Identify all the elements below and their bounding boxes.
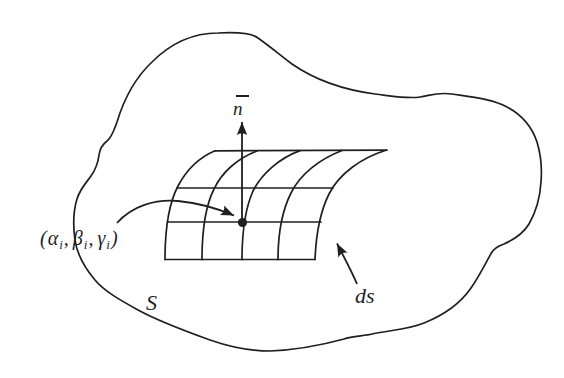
area-element-label: ds — [355, 285, 375, 307]
normal-vector-symbol: n — [233, 98, 243, 119]
surface-boundary-curve — [74, 33, 542, 351]
figure-surface-integral-diagram: n (αi,βi,γi) S ds — [0, 0, 564, 378]
ds-label-arrow — [337, 244, 357, 285]
comma-2: , — [88, 227, 94, 249]
normal-vector-label: n — [233, 95, 249, 118]
mesh-row-top — [215, 150, 387, 151]
comma-1: , — [64, 227, 70, 249]
mesh-col-3 — [242, 151, 300, 260]
paren-open: ( — [40, 227, 48, 249]
point-coordinates-label: (αi,βi,γi) — [40, 228, 119, 248]
diagram-canvas — [0, 0, 564, 378]
mesh-col-5 — [315, 150, 386, 259]
gamma-symbol: γ — [97, 227, 106, 249]
sample-point-dot — [238, 218, 247, 227]
surface-label: S — [146, 292, 157, 314]
beta-symbol: β — [73, 227, 84, 249]
point-label-arrow — [117, 201, 234, 223]
paren-close: ) — [111, 227, 119, 249]
alpha-symbol: α — [48, 227, 60, 249]
overbar — [236, 95, 249, 97]
mesh-col-4 — [278, 151, 342, 260]
